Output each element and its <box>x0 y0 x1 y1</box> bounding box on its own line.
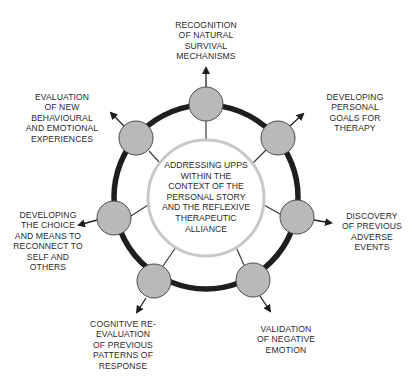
label-lower-right: VALIDATION OF NEGATIVE EMOTION <box>236 324 336 355</box>
arrow-icon <box>314 220 331 223</box>
node-upper-left <box>119 121 153 155</box>
label-upper-left: EVALUATION OF NEW BEHAVIOURAL AND EMOTIO… <box>22 92 102 144</box>
label-left: DEVELOPING THE CHOICE AND MEANS TO RECON… <box>8 210 88 272</box>
label-lower-left: COGNITIVE RE- EVALUATION OF PREVIOUS PAT… <box>73 319 173 371</box>
node-right <box>280 200 314 234</box>
node-left <box>97 201 131 235</box>
arrow-icon <box>111 113 124 126</box>
label-upper-right: DEVELOPING PERSONAL GOALS FOR THERAPY <box>310 92 400 134</box>
center-label: ADDRESSING UPPS WITHIN THE CONTEXT OF TH… <box>150 160 262 234</box>
arrow-icon <box>137 298 146 312</box>
node-lower-left <box>137 264 171 298</box>
label-right: DISCOVERY OF PREVIOUS ADVERSE EVENTS <box>330 211 414 253</box>
node-top <box>189 87 223 121</box>
label-top: RECOGNITION OF NATURAL SURVIVAL MECHANIS… <box>150 20 262 62</box>
arrow-icon <box>290 114 303 126</box>
arrow-icon <box>260 296 270 311</box>
node-lower-right <box>236 263 270 297</box>
node-upper-right <box>261 121 295 155</box>
